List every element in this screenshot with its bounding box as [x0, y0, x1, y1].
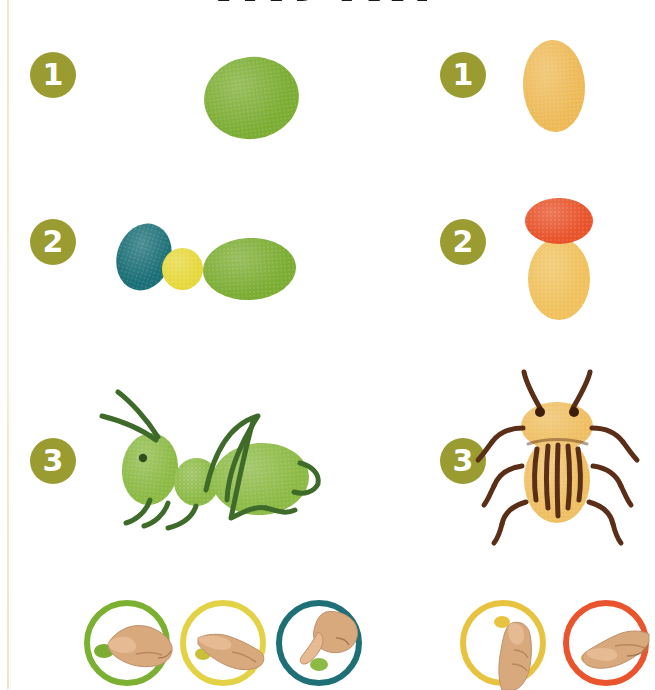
step-badge-3-right: 3: [440, 438, 486, 484]
hand-pointing-right-icon: [194, 616, 268, 674]
leg-right-rear: [589, 502, 613, 524]
step-badge-1-right: 1: [440, 52, 486, 98]
leg-right-front: [592, 428, 623, 442]
green-thumbprint-head: [118, 430, 181, 507]
leg-right-mid-tip: [621, 486, 631, 505]
step-badge-3-left: 3: [30, 438, 76, 484]
yellow-thumbprint-body-step2: [528, 238, 590, 320]
orange-fingerprint-head: [525, 198, 593, 244]
guide-circle-yellow[interactable]: [180, 600, 266, 686]
step-badge-2-left: 2: [30, 219, 76, 265]
page-title-clip: ЖУКИ: [0, 0, 655, 14]
front-leg-2: [144, 503, 168, 526]
yellow-fingerprint-thorax: [162, 248, 203, 290]
antenna-right: [573, 372, 590, 408]
leg-left-mid: [494, 466, 522, 486]
leg-left-front: [492, 428, 523, 442]
leg-right-rear-tip: [613, 524, 621, 543]
step-badge-1-left: 1: [30, 52, 76, 98]
green-thumbprint-abdomen: [201, 236, 297, 303]
middle-leg: [168, 506, 196, 528]
guide-circle-green[interactable]: [84, 600, 170, 686]
hand-pointing-right-icon: [102, 614, 174, 672]
leg-right-mid: [593, 466, 621, 486]
guide-circle-orange[interactable]: [563, 600, 649, 686]
left-trim-line-inner: [10, 0, 11, 689]
hand-pointing-down-icon: [296, 608, 362, 670]
green-thumbprint-body: [199, 51, 304, 145]
guide-circle-teal[interactable]: [276, 600, 362, 686]
guide-circle-yellow-right[interactable]: [460, 600, 546, 686]
thumb-up-icon: [490, 614, 542, 690]
leg-left-rear-tip: [494, 524, 502, 543]
antenna-upper: [118, 392, 158, 437]
left-trim-line: [7, 0, 9, 689]
yellow-thumbprint-body: [521, 38, 588, 133]
leg-right-front-tip: [623, 442, 637, 460]
yellow-thumbprint-abdomen: [524, 437, 590, 523]
leg-left-mid-tip: [484, 486, 494, 505]
hand-pointing-left-icon: [575, 618, 653, 672]
step-badge-2-right: 2: [440, 219, 486, 265]
antenna-left: [524, 372, 540, 408]
page-title: ЖУКИ: [0, 0, 655, 12]
green-thumbprint-abdomen: [210, 440, 312, 519]
leg-left-rear: [502, 502, 526, 524]
